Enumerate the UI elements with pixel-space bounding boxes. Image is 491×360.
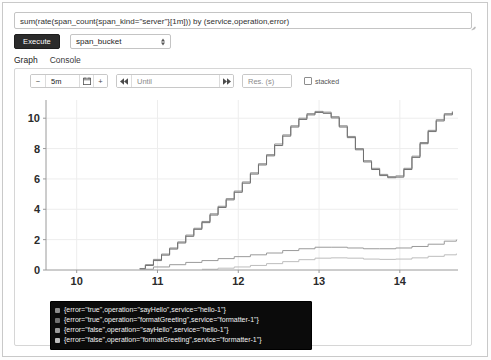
svg-text:12: 12	[232, 275, 244, 287]
legend-series-label: {error="false",operation="formatGreeting…	[64, 335, 262, 345]
legend-item[interactable]: {error="true",operation="sayHello",servi…	[55, 305, 307, 315]
svg-text:14: 14	[394, 275, 407, 287]
range-increase-button[interactable]: +	[93, 75, 107, 87]
svg-text:4: 4	[34, 203, 41, 215]
svg-text:6: 6	[34, 173, 40, 185]
tab-console[interactable]: Console	[50, 55, 81, 67]
legend-color-swatch	[55, 318, 60, 323]
query-expression-input[interactable]: sum(rate(span_count{span_kind="server"}[…	[14, 12, 472, 29]
textarea-resize-handle[interactable]	[471, 24, 476, 29]
range-decrease-button[interactable]: −	[31, 75, 45, 87]
prometheus-graph-page: sum(rate(span_count{span_kind="server"}[…	[0, 0, 491, 360]
resolution-group: Res. (s)	[242, 74, 292, 88]
step-forward-icon[interactable]	[219, 75, 233, 87]
execute-button[interactable]: Execute	[14, 34, 60, 49]
calendar-icon[interactable]	[79, 75, 93, 87]
legend-item[interactable]: {error="false",operation="formatGreeting…	[55, 335, 307, 345]
query-controls-row: Execute span_bucket	[14, 33, 171, 50]
until-input[interactable]: Until	[131, 75, 219, 87]
metric-bucket-select[interactable]: span_bucket	[70, 34, 171, 49]
time-navigation-group: Until	[116, 74, 234, 88]
legend-color-swatch	[55, 338, 60, 343]
metric-bucket-value: span_bucket	[76, 37, 121, 46]
legend-item[interactable]: {error="true",operation="formatGreeting"…	[55, 315, 307, 325]
svg-text:10: 10	[71, 275, 83, 287]
legend-series-label: {error="false",operation="sayHello",serv…	[64, 325, 229, 335]
svg-text:10: 10	[28, 112, 40, 124]
step-backward-icon[interactable]	[117, 75, 131, 87]
legend-color-swatch	[55, 308, 60, 313]
view-tabs: Graph Console	[14, 55, 81, 67]
legend-series-label: {error="true",operation="formatGreeting"…	[64, 315, 259, 325]
graph-toolbar: − 5m + Until	[30, 73, 343, 89]
chevron-updown-icon	[161, 38, 165, 45]
svg-text:0: 0	[34, 264, 40, 276]
line-chart: 02468101011121314	[14, 92, 472, 292]
stacked-label: stacked	[315, 78, 339, 85]
svg-text:13: 13	[313, 275, 325, 287]
stacked-checkbox[interactable]: stacked	[300, 74, 343, 88]
legend-series-label: {error="true",operation="sayHello",servi…	[64, 305, 226, 315]
legend-item[interactable]: {error="false",operation="sayHello",serv…	[55, 325, 307, 335]
svg-text:8: 8	[34, 143, 40, 155]
legend-color-swatch	[55, 328, 60, 333]
svg-text:11: 11	[152, 275, 164, 287]
tab-graph[interactable]: Graph	[14, 55, 38, 67]
checkbox-icon	[304, 77, 312, 85]
range-input[interactable]: 5m	[45, 75, 79, 87]
resolution-input[interactable]: Res. (s)	[243, 75, 291, 87]
range-control-group: − 5m +	[30, 74, 108, 88]
chart-legend: {error="true",operation="sayHello",servi…	[50, 301, 312, 350]
svg-text:2: 2	[34, 234, 40, 246]
chart-plot-area: 02468101011121314	[14, 92, 472, 292]
